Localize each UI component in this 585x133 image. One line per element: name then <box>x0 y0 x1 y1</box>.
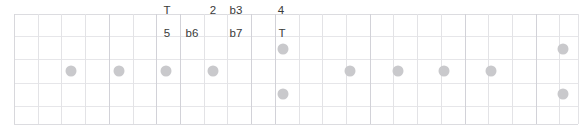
interval-label-b6: b6 <box>185 28 198 40</box>
interval-label-tonic-upper: T <box>163 5 170 17</box>
interval-label-4: 4 <box>278 5 285 17</box>
interval-label-2: 2 <box>210 5 217 17</box>
interval-label-tonic-lower: T <box>278 28 285 40</box>
interval-label-b7: b7 <box>229 28 242 40</box>
interval-label-b3: b3 <box>229 5 242 17</box>
interval-label-layer: T2b345b6b7T <box>0 0 585 133</box>
interval-label-5: 5 <box>164 28 171 40</box>
fretboard-scale-diagram: T2b345b6b7T <box>0 0 585 133</box>
